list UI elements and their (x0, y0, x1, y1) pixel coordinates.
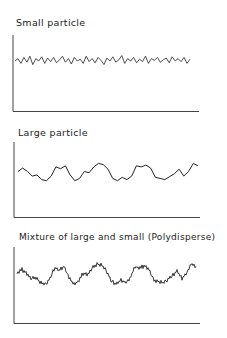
trace-small (15, 56, 190, 65)
chart-canvas (0, 0, 227, 338)
axes-small (13, 35, 199, 112)
trace-mixture (17, 263, 196, 286)
trace-large (18, 163, 198, 180)
axes-mixture (14, 247, 200, 324)
